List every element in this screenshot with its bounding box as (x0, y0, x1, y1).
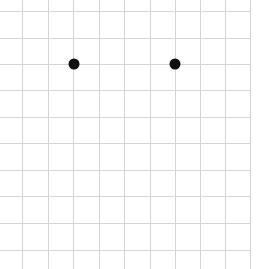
dot-grid-diagram (0, 0, 257, 269)
background (0, 0, 257, 269)
dot-2 (170, 59, 181, 70)
dot-1 (69, 59, 80, 70)
